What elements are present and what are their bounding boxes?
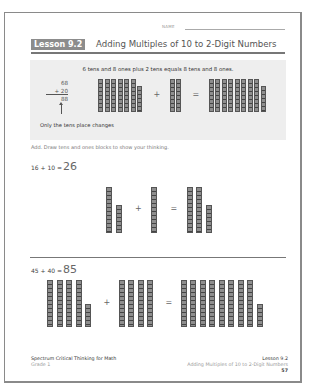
example-box: 6 tens and 8 ones plus 2 tens equals 8 t… <box>30 60 286 140</box>
tens-rod <box>131 79 136 112</box>
tens-rod <box>190 280 196 327</box>
tens-rod <box>66 280 72 327</box>
tens-rod <box>106 187 112 233</box>
tens-rod <box>248 79 253 112</box>
tens-rod <box>235 79 240 112</box>
plus-sign: + <box>135 204 142 213</box>
tens-rod <box>228 79 233 112</box>
equals-sign: = <box>166 298 173 307</box>
problem-2-expression: 45 + 40 = <box>31 267 62 274</box>
tens-rod <box>219 280 225 327</box>
problem-1-equation: 16 + 10 =26 <box>31 160 77 173</box>
instructions: Add. Draw tens and ones blocks to show y… <box>31 144 169 150</box>
tens-rod <box>196 187 202 233</box>
problem-2-equation: 45 + 40 =85 <box>31 263 77 276</box>
tens-rod <box>181 280 187 327</box>
tens-rod <box>147 280 153 327</box>
tens-rod <box>47 280 53 327</box>
tens-rod <box>124 79 129 112</box>
tens-rod <box>187 187 193 233</box>
ones-column <box>137 86 142 112</box>
tens-rod <box>215 79 220 112</box>
ones-column <box>261 86 266 112</box>
lesson-title: Adding Multiples of 10 to 2-Digit Number… <box>96 39 277 50</box>
lesson-badge: Lesson 9.2 <box>31 39 85 50</box>
vertical-addition: 68 + 20 88 <box>46 79 68 103</box>
name-label: NAME <box>162 24 175 29</box>
tens-rod <box>200 280 206 327</box>
equals-sign: = <box>193 90 200 99</box>
up-arrow-icon <box>61 104 62 114</box>
tens-rod <box>57 280 63 327</box>
footer-lesson-title: Adding Multiples of 10 to 2-Digit Number… <box>187 362 288 368</box>
title-divider <box>31 52 285 54</box>
tens-rod <box>170 79 175 112</box>
problem-divider <box>30 257 286 258</box>
addend-1: 68 <box>46 79 68 87</box>
name-input-line[interactable] <box>185 29 285 30</box>
problem-2-answer[interactable]: 85 <box>63 263 77 276</box>
tens-rod <box>138 280 144 327</box>
example-caption: 6 tens and 8 ones plus 2 tens equals 8 t… <box>30 66 286 72</box>
ones-column <box>85 304 91 328</box>
tens-rod <box>254 79 259 112</box>
ones-column <box>116 205 122 233</box>
tens-rod <box>209 79 214 112</box>
footer-left: Spectrum Critical Thinking for Math Grad… <box>31 356 116 368</box>
problem-1-expression: 16 + 10 = <box>31 164 62 171</box>
plus-sign: + <box>104 298 111 307</box>
tens-rod <box>98 79 103 112</box>
ones-column <box>206 205 212 233</box>
plus-sign: + <box>154 90 161 99</box>
page-number: 57 <box>187 368 288 374</box>
tens-rod <box>76 280 82 327</box>
tens-rod <box>128 280 134 327</box>
footer-right: Lesson 9.2 Adding Multiples of 10 to 2-D… <box>187 356 288 374</box>
tens-rod <box>111 79 116 112</box>
problem-1-answer[interactable]: 26 <box>63 160 77 173</box>
tens-rod <box>151 187 157 233</box>
grade-label: Grade 1 <box>31 362 116 368</box>
tens-rod <box>238 280 244 327</box>
tens-rod <box>228 280 234 327</box>
ones-column <box>257 304 263 328</box>
equals-sign: = <box>171 204 178 213</box>
tens-rod <box>118 79 123 112</box>
tens-rod <box>247 280 253 327</box>
sum: 88 <box>46 95 68 103</box>
tens-rod <box>119 280 125 327</box>
tens-rod <box>176 79 181 112</box>
tens-rod <box>105 79 110 112</box>
tens-rod <box>241 79 246 112</box>
tens-rod <box>222 79 227 112</box>
tens-rod <box>209 280 215 327</box>
example-note: Only the tens place changes <box>40 122 114 128</box>
